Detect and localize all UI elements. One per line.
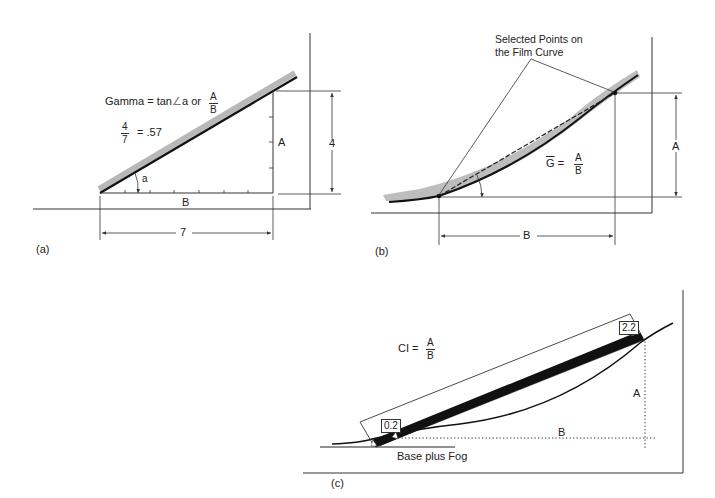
or-word: or — [191, 95, 201, 107]
panel-c — [303, 290, 683, 473]
gamma-word: Gamma — [105, 95, 144, 107]
panel-a-angle-label: a — [142, 174, 148, 184]
panel-b-ab-fraction: A B — [574, 153, 583, 176]
panel-c-dim-vertical: A — [633, 388, 640, 399]
angle-icon: ∠ — [172, 95, 182, 107]
panel-a — [33, 33, 341, 240]
panel-c-caption: (c) — [331, 478, 344, 489]
panel-c-high-density-label: 2.2 — [619, 321, 639, 335]
panel-b-curve-band — [383, 70, 640, 201]
panel-b-dim-vertical: A — [672, 141, 679, 152]
panel-b-callout: Selected Points on the Film Curve — [495, 33, 583, 59]
angle-var: a — [182, 95, 188, 107]
panel-c-ruler-outline — [360, 314, 643, 446]
panel-a-a-ticks — [269, 117, 273, 168]
panel-c-dim-horizontal: B — [558, 427, 565, 438]
panel-a-example-result: = .57 — [137, 127, 162, 138]
panel-c-ab-fraction: A B — [426, 338, 435, 361]
panel-c-formula-lhs: CI = — [398, 343, 419, 354]
panel-a-angle-arc — [135, 173, 138, 193]
diagram-canvas — [0, 0, 715, 498]
panel-c-low-density-label: 0.2 — [381, 419, 401, 433]
panel-b-caption: (b) — [375, 246, 388, 257]
panel-b-dim-horizontal: B — [523, 230, 530, 241]
panel-a-dim-horizontal: 7 — [180, 227, 186, 238]
tan-word: tan — [157, 95, 172, 107]
panel-a-example-fraction: 4 7 — [121, 122, 129, 145]
panel-b — [371, 37, 682, 245]
panel-a-dim-vertical: 4 — [329, 138, 335, 149]
panel-a-side-b-label: B — [182, 197, 189, 208]
panel-a-gamma-formula: Gamma = tan∠a or — [105, 96, 201, 107]
equals-sign: = — [147, 95, 153, 107]
panel-c-base-fog-label: Base plus Fog — [397, 451, 467, 462]
panel-a-caption: (a) — [36, 244, 49, 255]
panel-a-ab-fraction: A B — [209, 92, 218, 115]
panel-a-side-a-label: A — [278, 137, 285, 148]
panel-b-formula-lhs: G = — [546, 158, 564, 169]
panel-b-callout-lines — [439, 59, 614, 195]
